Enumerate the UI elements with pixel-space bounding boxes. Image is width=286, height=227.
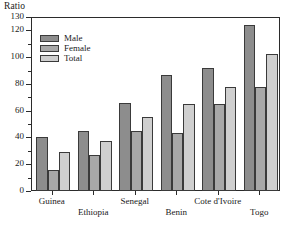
- y-tick-label: 0: [20, 185, 25, 196]
- legend-swatch-total-icon: [40, 55, 59, 62]
- x-tick-label: Senegal: [121, 196, 150, 207]
- x-axis-tick: [218, 191, 219, 195]
- x-tick-label: Benin: [166, 207, 188, 218]
- x-tick-label: Cote d'Ivoire: [194, 196, 241, 207]
- y-tick-label: 120: [11, 24, 25, 35]
- bar: [183, 104, 194, 191]
- bar: [89, 155, 100, 191]
- legend-label-female: Female: [64, 43, 91, 53]
- y-tick-label: 40: [15, 131, 24, 142]
- bar: [225, 87, 236, 191]
- legend-swatch-female-icon: [40, 45, 59, 52]
- x-axis-tick: [93, 191, 94, 195]
- y-tick-mark: [26, 191, 31, 192]
- bar: [48, 170, 59, 191]
- legend-item-female: Female: [40, 43, 91, 53]
- bar: [131, 131, 142, 191]
- x-tick-label: Togo: [250, 207, 268, 218]
- bar: [142, 117, 153, 191]
- y-tick-label: 100: [11, 51, 25, 62]
- bar: [100, 141, 111, 191]
- y-tick-label: 20: [15, 158, 24, 169]
- bar: [119, 103, 130, 191]
- x-axis-tick: [52, 191, 53, 195]
- bar: [266, 54, 277, 191]
- bar: [161, 75, 172, 191]
- x-axis-tick: [135, 191, 136, 195]
- bar: [255, 87, 266, 191]
- y-tick-label: 130: [11, 11, 25, 22]
- x-tick-label: Ethiopia: [78, 207, 109, 218]
- legend: Male Female Total: [40, 33, 91, 63]
- legend-label-total: Total: [64, 53, 82, 63]
- bar-chart: Ratio 020406080100120130 GuineaEthiopiaS…: [0, 0, 286, 227]
- y-tick-label: 80: [15, 78, 24, 89]
- x-tick-label: Guinea: [39, 196, 65, 207]
- y-tick-label: 60: [15, 105, 24, 116]
- bar: [214, 104, 225, 191]
- bar: [78, 131, 89, 191]
- bar: [202, 68, 213, 191]
- bar: [36, 137, 47, 191]
- x-axis-tick: [259, 191, 260, 195]
- bar: [172, 133, 183, 191]
- bar: [59, 152, 70, 191]
- legend-item-total: Total: [40, 53, 91, 63]
- legend-label-male: Male: [64, 33, 83, 43]
- bar: [244, 25, 255, 191]
- legend-item-male: Male: [40, 33, 91, 43]
- x-axis-tick: [176, 191, 177, 195]
- legend-swatch-male-icon: [40, 35, 59, 42]
